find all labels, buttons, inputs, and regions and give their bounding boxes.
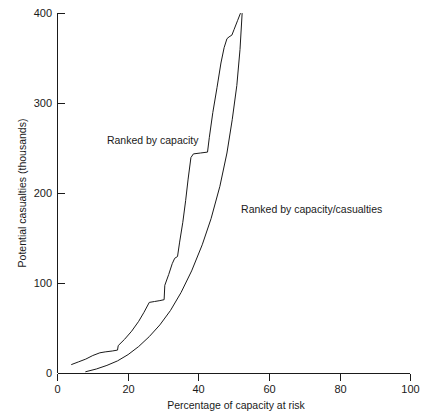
chart-figure: 400 300 200 100 0 0 20 40 60 80 100 Perc… [0,0,432,418]
x-tick-label-100: 100 [401,383,419,395]
x-axis-ticks [58,374,411,381]
series-annotation-capacity-casualties: Ranked by capacity/casualties [241,203,382,215]
x-tick-label-40: 40 [192,383,204,395]
y-axis-ticks [58,14,65,374]
x-tick-label-0: 0 [54,383,60,395]
x-tick-label-20: 20 [122,383,134,395]
y-tick-label-300: 300 [34,97,52,109]
x-axis-title: Percentage of capacity at risk [167,399,305,411]
chart-plot-area: 400 300 200 100 0 0 20 40 60 80 100 Perc… [0,0,432,418]
y-tick-label-100: 100 [34,277,52,289]
series-annotation-capacity: Ranked by capacity [107,134,199,146]
y-tick-label-400: 400 [34,7,52,19]
x-tick-label-60: 60 [263,383,275,395]
series-line-ranked-by-capacity-casualties [86,14,242,372]
y-axis-title: Potential casualties (thousands) [16,119,28,268]
y-tick-label-200: 200 [34,187,52,199]
series-line-ranked-by-capacity [72,14,241,365]
y-tick-label-0: 0 [46,367,52,379]
x-tick-label-80: 80 [334,383,346,395]
